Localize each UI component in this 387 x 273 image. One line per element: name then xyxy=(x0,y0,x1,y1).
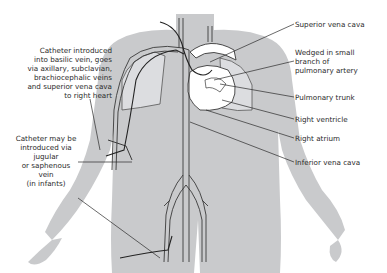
label-pulmonary-trunk: Pulmonary trunk xyxy=(295,93,355,102)
label-inferior-vena-cava: Inferior vena cava xyxy=(295,158,360,167)
label-right-ventricle: Right ventricle xyxy=(295,115,348,124)
label-basilic-route: Catheter introduced into basilic vein, g… xyxy=(20,46,112,100)
label-right-atrium: Right atrium xyxy=(295,134,340,143)
label-jugular-route: Catheter may be introduced via jugular o… xyxy=(8,134,84,188)
label-superior-vena-cava: Superior vena cava xyxy=(295,20,365,29)
label-wedged: Wedged in small branch of pulmonary arte… xyxy=(295,48,358,75)
